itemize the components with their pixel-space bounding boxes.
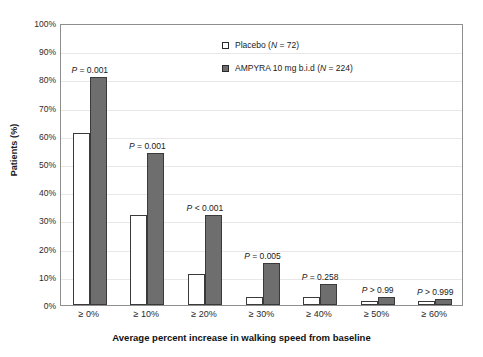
legend-label: Placebo (N = 72)	[235, 40, 299, 50]
p-value-annotation: P = 0.258	[302, 272, 339, 282]
y-tick-label: 70%	[22, 104, 56, 114]
p-value-annotation: P > 0.999	[417, 287, 454, 297]
bar-placebo	[130, 215, 147, 305]
legend-swatch-open-square-icon	[222, 42, 229, 49]
x-axis-tick-labels: ≥ 0%≥ 10%≥ 20%≥ 30%≥ 40%≥ 50%≥ 60%	[60, 309, 463, 325]
x-tick-label: ≥ 30%	[249, 309, 274, 319]
p-value-annotation: P = 0.001	[71, 65, 108, 75]
x-tick-label: ≥ 60%	[421, 309, 446, 319]
gridline	[61, 166, 462, 167]
x-tick-label: ≥ 40%	[306, 309, 331, 319]
y-tick-label: 50%	[22, 160, 56, 170]
p-value-annotation: P > 0.99	[362, 285, 394, 295]
y-tick-label: 30%	[22, 216, 56, 226]
p-value-annotation: P = 0.005	[244, 251, 281, 261]
bar-ampyra	[90, 77, 107, 305]
bar-placebo	[418, 301, 435, 305]
bar-placebo	[73, 133, 90, 305]
legend-item[interactable]: Placebo (N = 72)	[222, 40, 353, 50]
bar-ampyra	[147, 153, 164, 305]
chart-figure: Patients (%) 0%10%20%30%40%50%60%70%80%9…	[0, 0, 483, 357]
p-value-annotation: P < 0.001	[187, 203, 224, 213]
bar-placebo	[361, 301, 378, 305]
gridline	[61, 222, 462, 223]
legend-label: AMPYRA 10 mg b.i.d (N = 224)	[235, 63, 353, 73]
gridline	[61, 194, 462, 195]
chart-legend: Placebo (N = 72)AMPYRA 10 mg b.i.d (N = …	[222, 40, 353, 86]
y-tick-label: 60%	[22, 132, 56, 142]
y-tick-label: 40%	[22, 188, 56, 198]
x-tick-label: ≥ 10%	[134, 309, 159, 319]
bar-placebo	[188, 274, 205, 305]
p-value-annotation: P = 0.001	[129, 141, 166, 151]
x-tick-label: ≥ 20%	[191, 309, 216, 319]
gridline	[61, 110, 462, 111]
x-tick-label: ≥ 0%	[79, 309, 99, 319]
gridline	[61, 138, 462, 139]
bar-ampyra	[435, 299, 452, 305]
bar-ampyra	[263, 263, 280, 305]
y-axis-tick-labels: 0%10%20%30%40%50%60%70%80%90%100%	[20, 0, 56, 357]
legend-item[interactable]: AMPYRA 10 mg b.i.d (N = 224)	[222, 63, 353, 73]
gridline	[61, 279, 462, 280]
x-axis-title: Average percent increase in walking spee…	[0, 332, 483, 343]
legend-swatch-filled-square-icon	[222, 65, 229, 72]
y-tick-label: 10%	[22, 273, 56, 283]
bar-ampyra	[205, 215, 222, 305]
bar-placebo	[246, 297, 263, 305]
bar-ampyra	[378, 297, 395, 305]
y-tick-label: 90%	[22, 47, 56, 57]
y-tick-label: 100%	[22, 19, 56, 29]
bar-placebo	[303, 297, 320, 305]
y-tick-label: 20%	[22, 245, 56, 255]
bar-ampyra	[320, 284, 337, 305]
y-tick-label: 80%	[22, 75, 56, 85]
x-tick-label: ≥ 50%	[364, 309, 389, 319]
y-tick-label: 0%	[22, 301, 56, 311]
